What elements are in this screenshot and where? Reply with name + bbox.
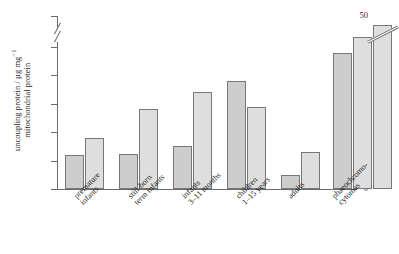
bar [333, 53, 352, 189]
bars-layer [57, 16, 357, 189]
y-axis-title-exponent: −1 [10, 49, 17, 56]
y-tick-0 [51, 189, 57, 190]
bar [173, 146, 192, 189]
bar [373, 25, 392, 189]
y-axis-title: uncoupling protein / µg mg−1 mitochondri… [13, 20, 33, 180]
y-axis-title-line1: uncoupling protein / µg mg−1 [13, 49, 22, 151]
y-axis-title-line2: mitochondrial protein [23, 20, 33, 180]
bar [227, 81, 246, 189]
y-axis-title-container: uncoupling protein / µg mg−1 mitochondri… [0, 0, 40, 200]
